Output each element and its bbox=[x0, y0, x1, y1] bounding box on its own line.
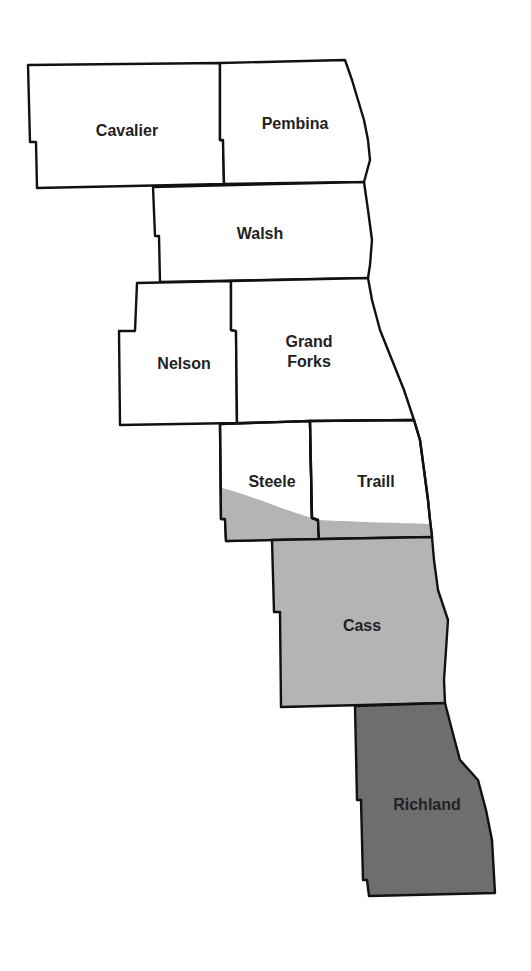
label-walsh: Walsh bbox=[237, 224, 284, 244]
county-nelson[interactable] bbox=[119, 281, 237, 425]
label-cass: Cass bbox=[343, 616, 381, 636]
label-nelson: Nelson bbox=[157, 354, 210, 374]
label-steele: Steele bbox=[248, 472, 295, 492]
label-pembina: Pembina bbox=[262, 114, 329, 134]
label-cavalier: Cavalier bbox=[96, 121, 158, 141]
label-richland: Richland bbox=[393, 795, 461, 815]
label-grand-forks: Grand Forks bbox=[285, 332, 332, 372]
label-traill: Traill bbox=[357, 472, 394, 492]
county-map: Cavalier Pembina Walsh Nelson Grand Fork… bbox=[0, 0, 531, 971]
